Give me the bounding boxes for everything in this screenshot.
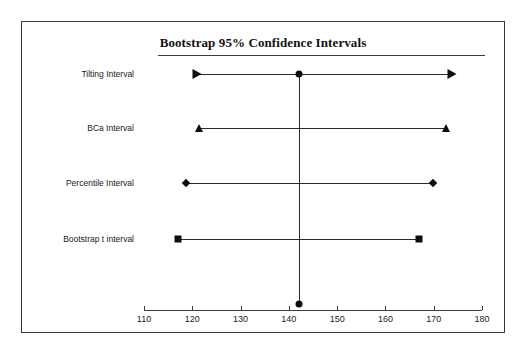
interval-line-3: [186, 183, 433, 184]
row-label-bootstrap-t-interval: Bootstrap t interval: [63, 234, 134, 244]
marker-diamond-upper: [429, 179, 437, 187]
interval-line-1: [197, 74, 452, 75]
chart-figure: Bootstrap 95% Confidence Intervals Tilti…: [21, 21, 505, 333]
x-axis-tick-160: [385, 306, 386, 310]
x-axis-tick-130: [241, 306, 242, 310]
x-axis-tick-label-160: 160: [378, 314, 393, 324]
marker-diamond-lower: [182, 179, 190, 187]
axis-point-estimate-dot: [295, 301, 302, 308]
plot-area: Tilting IntervalBCa IntervalPercentile I…: [22, 22, 506, 334]
marker-triangle-right-lower: [193, 69, 202, 79]
marker-square-upper: [416, 236, 423, 243]
x-axis-tick-150: [337, 306, 338, 310]
x-axis-tick-label-110: 110: [137, 314, 151, 324]
reference-vertical-line: [299, 74, 300, 304]
x-axis-tick-label-180: 180: [474, 314, 489, 324]
interval-line-2: [199, 128, 446, 129]
row-label-percentile-interval: Percentile Interval: [66, 178, 134, 188]
x-axis-tick-180: [482, 306, 483, 310]
interval-line-4: [178, 239, 419, 240]
x-axis-line: [144, 310, 482, 311]
x-axis-tick-label-150: 150: [330, 314, 345, 324]
row-label-tilting-interval: Tilting Interval: [81, 69, 134, 79]
marker-triangle-up-lower: [195, 124, 203, 132]
marker-square-lower: [175, 236, 182, 243]
marker-triangle-right-upper: [448, 69, 457, 79]
x-axis-tick-label-140: 140: [281, 314, 296, 324]
x-axis-tick-label-170: 170: [426, 314, 441, 324]
x-axis-tick-label-130: 130: [233, 314, 248, 324]
x-axis-tick-110: [144, 306, 145, 310]
x-axis-tick-140: [289, 306, 290, 310]
x-axis-tick-120: [192, 306, 193, 310]
row-label-bca-interval: BCa Interval: [87, 123, 134, 133]
x-axis-tick-170: [434, 306, 435, 310]
x-axis-tick-label-120: 120: [185, 314, 200, 324]
marker-triangle-up-upper: [442, 124, 450, 132]
marker-center-estimate: [295, 71, 302, 78]
